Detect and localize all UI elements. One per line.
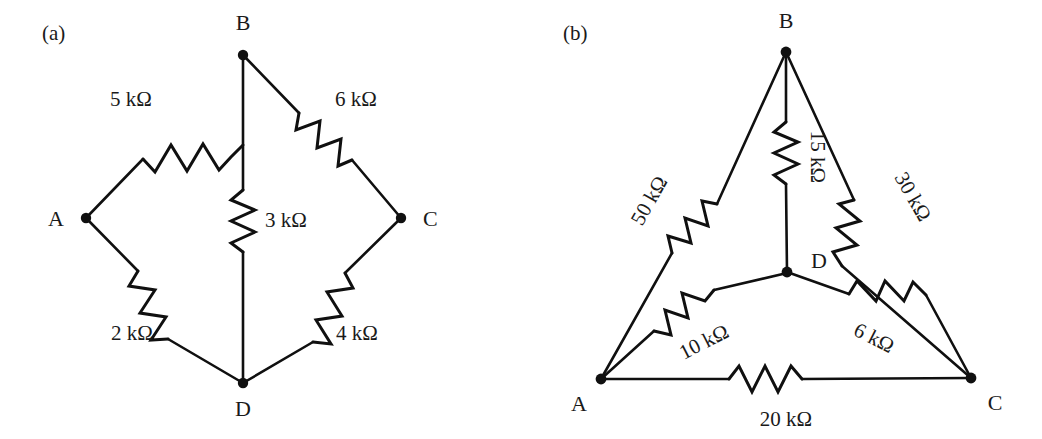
resistor-zigzag-b-BC	[833, 200, 860, 266]
wire-a-res4-to-C	[345, 218, 401, 273]
branch-b-AD: 10 kΩ	[601, 273, 787, 379]
node-dot-a-B	[238, 50, 248, 60]
panel-a-tag: (a)	[42, 21, 65, 45]
resistor-label-a-AD: 2 kΩ	[111, 321, 153, 345]
wire-b-res50-to-B	[717, 52, 786, 204]
resistor-label-b-DC: 6 kΩ	[850, 318, 898, 358]
node-label-b-D: D	[811, 248, 827, 273]
wire-a-D-to-res4	[243, 342, 313, 383]
node-label-a-B: B	[236, 10, 251, 35]
resistor-zigzag-b-AB	[668, 201, 717, 253]
branch-b-AC: 20 kΩ	[601, 366, 971, 431]
branch-b-DC: 6 kΩ	[787, 272, 971, 378]
circuit-panel-b: (b) 50 kΩ 30 kΩ 15 kΩ	[521, 0, 1042, 439]
figure-root: (a) 5 kΩ 6 kΩ	[0, 0, 1042, 439]
wire-b-res20-to-C	[802, 378, 971, 379]
wire-b-A-to-res10	[601, 331, 654, 379]
resistor-label-a-BD: 3 kΩ	[265, 208, 307, 232]
node-label-b-A: A	[571, 391, 587, 416]
node-dot-b-D	[782, 267, 793, 278]
node-label-b-C: C	[988, 390, 1003, 415]
resistor-label-b-AC: 20 kΩ	[760, 407, 812, 431]
branch-b-AB: 50 kΩ	[601, 52, 786, 379]
resistor-zigzag-a-BD	[231, 190, 255, 252]
resistor-zigzag-b-DC	[849, 281, 926, 301]
wire-a-res2-to-D	[168, 339, 243, 383]
wire-b-res10-to-node-D	[714, 273, 787, 290]
wire-a-A-to-res2	[86, 218, 138, 271]
resistor-label-a-BC: 6 kΩ	[335, 87, 377, 111]
resistor-label-b-BC: 30 kΩ	[890, 168, 937, 225]
node-dot-a-C	[396, 213, 406, 223]
node-dot-b-A	[596, 374, 607, 385]
wire-a-A-to-res5	[86, 159, 143, 218]
wire-b-res6-to-C	[926, 295, 971, 378]
circuit-panel-a: (a) 5 kΩ 6 kΩ	[0, 0, 521, 439]
node-dot-a-D	[238, 378, 248, 388]
branch-a-AB: 5 kΩ	[86, 87, 243, 218]
resistor-label-b-BD: 15 kΩ	[806, 131, 830, 183]
resistor-label-b-AB: 50 kΩ	[625, 172, 672, 229]
branch-a-BC: 6 kΩ	[243, 55, 401, 218]
resistor-label-b-AD: 10 kΩ	[675, 319, 733, 364]
resistor-zigzag-b-AC	[729, 366, 802, 392]
resistor-zigzag-a-AB	[143, 144, 243, 172]
node-dot-b-B	[781, 47, 792, 58]
node-label-a-D: D	[235, 396, 251, 421]
node-label-a-A: A	[48, 206, 64, 231]
resistor-label-a-DC: 4 kΩ	[336, 321, 378, 345]
node-dot-b-C	[966, 373, 977, 384]
branch-a-DC: 4 kΩ	[243, 218, 401, 383]
branch-a-AD: 2 kΩ	[86, 218, 243, 383]
resistor-zigzag-b-BD	[774, 122, 798, 184]
wire-b-A-to-res50	[601, 253, 672, 379]
node-label-a-C: C	[423, 206, 438, 231]
wire-b-D-to-res6	[787, 272, 849, 294]
wire-a-res6-to-C	[352, 160, 401, 218]
wire-a-B-to-res6	[243, 55, 299, 113]
node-label-b-B: B	[779, 8, 794, 33]
wire-b-res15-to-D	[786, 184, 787, 272]
panel-b-tag: (b)	[563, 21, 588, 45]
branch-a-BD: 3 kΩ	[231, 55, 307, 383]
resistor-zigzag-a-BC-final	[296, 113, 352, 166]
resistor-label-a-AB: 5 kΩ	[110, 87, 152, 111]
node-dot-a-A	[81, 213, 91, 223]
